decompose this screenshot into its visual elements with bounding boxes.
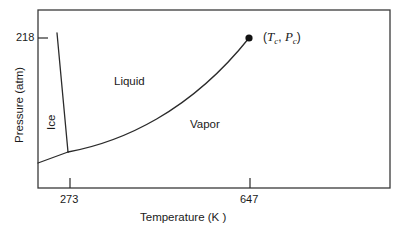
critical-subscript-t: c <box>274 36 278 46</box>
critical-subscript-p: c <box>293 36 297 46</box>
phase-diagram-figure: 218 Pressure (atm) 273 647 Temperature (… <box>0 0 398 233</box>
critical-point-label: (Tc, Pc) <box>263 30 301 43</box>
sublimation-curve <box>38 152 68 163</box>
region-label-vapor: Vapor <box>190 119 220 131</box>
vaporization-curve <box>68 38 249 152</box>
x-tick-label-647: 647 <box>240 194 258 205</box>
plot-frame <box>38 10 390 188</box>
y-axis-title: Pressure (atm) <box>14 67 26 143</box>
critical-point-marker <box>245 34 252 41</box>
critical-paren-close: ) <box>297 30 301 44</box>
fusion-curve <box>57 33 68 152</box>
region-label-liquid: Liquid <box>114 76 145 88</box>
y-tick-label-218: 218 <box>16 32 34 43</box>
region-label-ice: Ice <box>46 115 58 130</box>
x-tick-label-273: 273 <box>60 194 78 205</box>
x-axis-title: Temperature (K ) <box>140 212 226 224</box>
critical-comma: , <box>278 30 285 44</box>
critical-symbol-p: P <box>285 29 293 44</box>
